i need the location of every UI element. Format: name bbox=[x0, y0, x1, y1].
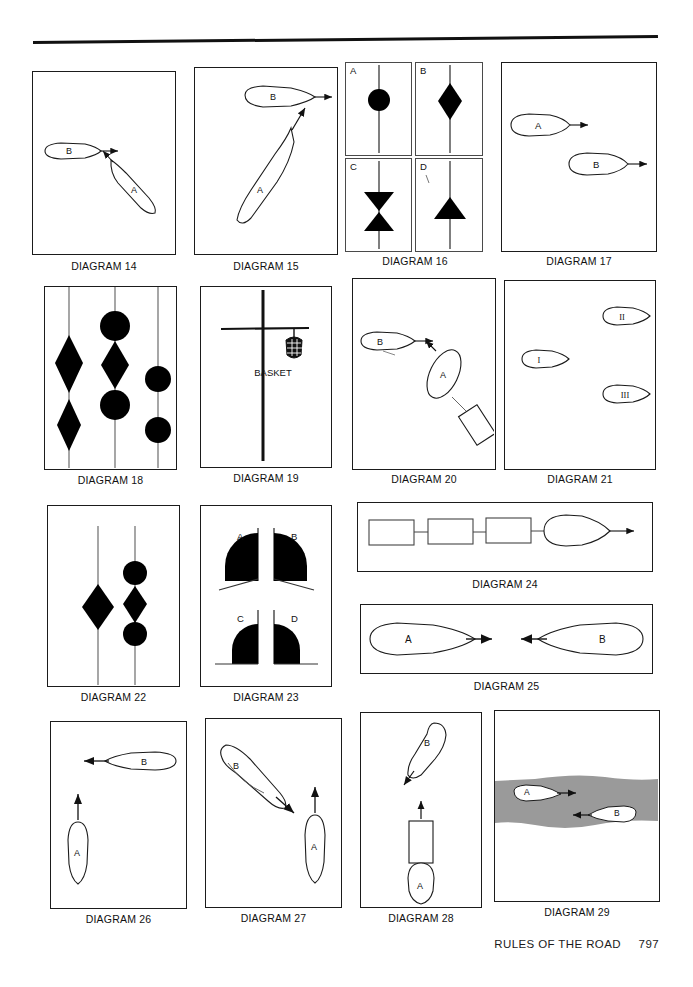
vessel-a-label: A bbox=[417, 881, 423, 891]
header-rule bbox=[33, 35, 658, 44]
vessel-b-hull bbox=[361, 332, 415, 350]
diagram-20: B A DIAGRAM 20 bbox=[352, 278, 496, 470]
panel-a-label: A bbox=[350, 65, 356, 76]
diagram-22-canvas bbox=[48, 506, 178, 685]
vessel-iii-label: III bbox=[621, 390, 630, 400]
ball-dayshape bbox=[100, 390, 130, 420]
diagram-28-frame: B A bbox=[360, 712, 482, 908]
vessel-a-course-arrow bbox=[426, 341, 436, 351]
diagram-25: A B DIAGRAM 25 bbox=[360, 604, 653, 674]
diagram-21-frame: II I III bbox=[504, 280, 656, 470]
panel-a-label: A bbox=[237, 531, 244, 542]
diagram-17-label: DIAGRAM 17 bbox=[501, 255, 657, 267]
diagram-27-label: DIAGRAM 27 bbox=[205, 912, 342, 924]
diagram-22-frame bbox=[47, 505, 180, 687]
panel-c-label: C bbox=[237, 613, 244, 624]
vessel-i-hull bbox=[522, 350, 569, 368]
vessel-a-label: A bbox=[131, 185, 137, 195]
ball-dayshape bbox=[100, 311, 130, 341]
diamond-dayshape bbox=[438, 83, 462, 120]
diagram-27-canvas: B A bbox=[206, 719, 340, 906]
diagram-14-canvas: B A bbox=[33, 72, 174, 253]
panel-d-canvas bbox=[416, 159, 482, 251]
page-footer: RULES OF THE ROAD 797 bbox=[494, 938, 659, 950]
diamond-dayshape bbox=[57, 399, 81, 451]
vessel-b-label: B bbox=[593, 159, 599, 170]
diagram-29-canvas: A B bbox=[495, 711, 658, 900]
diagram-22: DIAGRAM 22 bbox=[47, 505, 180, 687]
ball-dayshape bbox=[368, 89, 390, 111]
barge-3 bbox=[486, 518, 531, 543]
diagram-26: B A DIAGRAM 26 bbox=[50, 721, 187, 909]
diagram-15: B A DIAGRAM 15 bbox=[194, 67, 338, 255]
diagram-28-canvas: B A bbox=[361, 713, 480, 906]
diagram-25-frame: A B bbox=[360, 604, 653, 674]
diagram-17-canvas: A B bbox=[502, 63, 655, 250]
diagram-24-label: DIAGRAM 24 bbox=[357, 578, 653, 590]
dayshape-c bbox=[232, 624, 258, 664]
cone-point-up bbox=[364, 212, 394, 231]
vessel-a-hull bbox=[370, 623, 475, 655]
diagram-21: II I III DIAGRAM 21 bbox=[504, 280, 656, 470]
vessel-b-label: B bbox=[66, 146, 72, 156]
diagram-19-frame: BASKET bbox=[200, 286, 332, 468]
barge-2 bbox=[428, 519, 473, 544]
vessel-b-hull bbox=[45, 143, 101, 159]
vessel-a-label: A bbox=[74, 848, 80, 858]
vessel-b-label: B bbox=[270, 92, 276, 102]
vessel-a-label: A bbox=[535, 120, 542, 131]
vessel-b-label: B bbox=[377, 337, 383, 347]
diagram-28-label: DIAGRAM 28 bbox=[360, 912, 482, 924]
vessel-b-label: B bbox=[599, 634, 606, 645]
diagram-28: B A DIAGRAM 28 bbox=[360, 712, 482, 908]
panel-d-label: D bbox=[420, 161, 427, 172]
diagram-24-canvas bbox=[358, 503, 651, 570]
diagram-26-frame: B A bbox=[50, 721, 187, 909]
diagram-25-canvas: A B bbox=[361, 605, 651, 672]
panel-c-label: C bbox=[350, 161, 357, 172]
vessel-b-hull bbox=[538, 623, 643, 655]
diagram-16: A B C D bbox=[345, 62, 485, 252]
diagram-18-frame bbox=[44, 286, 177, 470]
panel-b-label: B bbox=[420, 65, 426, 76]
diagram-14-frame: B A bbox=[32, 71, 176, 255]
panel-d-label: D bbox=[291, 613, 298, 624]
diagram-19-canvas: BASKET bbox=[201, 287, 330, 466]
panel-b-canvas bbox=[416, 63, 482, 155]
diagram-23-canvas: A B C D bbox=[201, 506, 330, 685]
vessel-a-label: A bbox=[440, 370, 446, 380]
footer-page-number: 797 bbox=[639, 938, 659, 950]
diagram-16-panel-a: A bbox=[345, 62, 412, 156]
diagram-24-frame bbox=[357, 502, 653, 572]
diagram-23-label: DIAGRAM 23 bbox=[200, 691, 332, 703]
diagram-23: A B C D DIAGRAM 23 bbox=[200, 505, 332, 687]
stray-mark bbox=[426, 175, 429, 183]
diagram-15-canvas: B A bbox=[195, 68, 336, 253]
vessel-b-hull bbox=[245, 86, 315, 107]
diagram-24: DIAGRAM 24 bbox=[357, 502, 653, 572]
vessel-a-label: A bbox=[405, 634, 412, 645]
vessel-i-label: I bbox=[538, 355, 541, 365]
vessel-b-label: B bbox=[614, 808, 620, 818]
vessel-a-course-arrow bbox=[292, 108, 305, 130]
vessel-b-label: B bbox=[233, 761, 239, 771]
barge-1 bbox=[369, 520, 414, 545]
vessel-ii-label: II bbox=[619, 312, 625, 322]
ball-dayshape bbox=[145, 417, 171, 443]
ball-dayshape bbox=[123, 561, 147, 585]
ball-dayshape bbox=[123, 622, 147, 646]
diagram-19: BASKET DIAGRAM 19 bbox=[200, 286, 332, 468]
cone-point-down bbox=[364, 192, 394, 211]
vessel-a-hull bbox=[237, 128, 294, 223]
diagram-16-panel-c: C bbox=[345, 158, 412, 252]
cone-point-up bbox=[434, 197, 466, 219]
towed-barge bbox=[459, 405, 494, 445]
footer-title: RULES OF THE ROAD bbox=[494, 938, 621, 950]
diamond-dayshape bbox=[101, 341, 129, 389]
diagram-14-label: DIAGRAM 14 bbox=[32, 260, 176, 272]
diagram-20-canvas: B A bbox=[353, 279, 494, 468]
diagram-19-label: DIAGRAM 19 bbox=[200, 472, 332, 484]
vessel-b-hull bbox=[408, 723, 446, 778]
diagram-17: A B DIAGRAM 17 bbox=[501, 62, 657, 252]
diagram-18: DIAGRAM 18 bbox=[44, 286, 177, 470]
